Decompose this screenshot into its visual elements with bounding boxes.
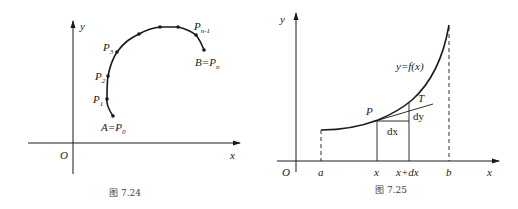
tick-x: x — [373, 166, 379, 178]
label-pn-1: Pn-1 — [193, 20, 210, 35]
tangent-t-label: T — [418, 92, 425, 104]
point-b-pn — [202, 48, 206, 52]
point-a-p0 — [111, 114, 115, 118]
division-points — [105, 25, 206, 118]
tick-b: b — [446, 166, 452, 178]
curve-label: y=f(x) — [395, 60, 424, 73]
caption-7-24: 图 7.24 — [109, 188, 141, 198]
point-p3 — [115, 50, 119, 54]
y-axis-label: y — [79, 20, 85, 32]
function-curve — [321, 25, 449, 130]
x-axis-label: x — [486, 166, 492, 178]
point-p2 — [106, 74, 110, 78]
figures-canvas: O x y A=P0 P1 P2 P3 Pn-1 B=Pn 图 7.24 — [0, 0, 518, 209]
caption-7-25: 图 7.25 — [375, 185, 407, 195]
arc-curve — [107, 27, 204, 116]
y-axis-label: y — [279, 13, 285, 25]
point-p5 — [158, 25, 162, 29]
dx-label: dx — [387, 125, 399, 137]
point-p6 — [176, 25, 180, 29]
origin-label: O — [60, 149, 68, 161]
x-axis-label: x — [229, 149, 235, 161]
origin-label: O — [282, 166, 290, 178]
tick-x-plus-dx: x+dx — [395, 166, 419, 178]
point-p-label: P — [365, 105, 373, 117]
point-pn-1 — [194, 33, 198, 37]
label-p2: P2 — [94, 70, 106, 85]
figure-7-25: O x y y=f(x) P T dy dx a x x+dx b 图 7.25 — [277, 13, 499, 195]
label-p3: P3 — [102, 41, 114, 56]
point-p4 — [137, 32, 141, 36]
dy-label: dy — [413, 110, 425, 122]
label-p1: P1 — [92, 93, 103, 108]
label-b-pn: B=Pn — [195, 56, 220, 71]
tick-a: a — [318, 166, 324, 178]
figure-7-24: O x y A=P0 P1 P2 P3 Pn-1 B=Pn 图 7.24 — [28, 20, 240, 198]
label-a-p0: A=P0 — [100, 121, 126, 136]
point-p1 — [105, 97, 109, 101]
